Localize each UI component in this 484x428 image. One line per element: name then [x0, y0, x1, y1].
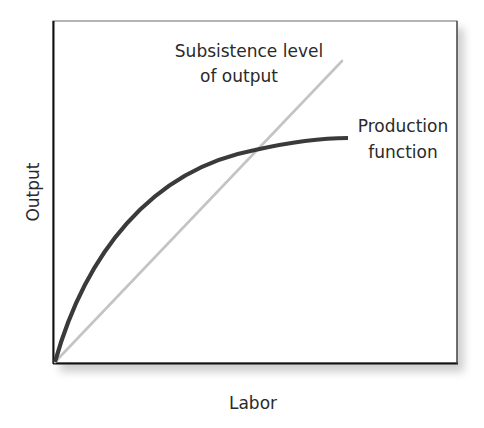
y-axis-label: Output: [23, 162, 43, 221]
subsistence-label-line2: of output: [200, 66, 278, 86]
subsistence-label-line1: Subsistence level: [175, 41, 323, 61]
production-label-line1: Production: [358, 116, 448, 136]
x-axis-label: Labor: [229, 393, 277, 413]
production-label-line2: function: [368, 142, 437, 162]
production-function-diagram: Subsistence level of output Production f…: [0, 0, 484, 428]
